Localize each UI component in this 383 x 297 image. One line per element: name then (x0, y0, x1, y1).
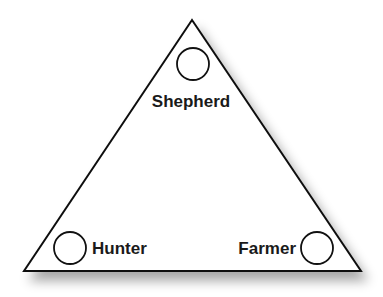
hunter-circle-icon (54, 232, 86, 264)
hunter-label: Hunter (92, 239, 147, 258)
diagram-canvas: Shepherd Hunter Farmer (0, 0, 383, 297)
triangle-diagram: Shepherd Hunter Farmer (0, 0, 383, 297)
shepherd-circle-icon (177, 48, 209, 80)
farmer-circle-icon (301, 232, 333, 264)
farmer-label: Farmer (238, 239, 296, 258)
shepherd-label: Shepherd (152, 92, 230, 111)
